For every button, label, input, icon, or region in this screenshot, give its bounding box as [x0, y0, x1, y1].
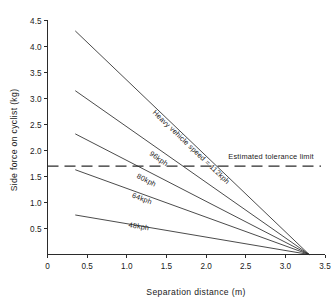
y-tick-label: 2.0 [30, 147, 42, 156]
series-label: 96kph [148, 149, 170, 168]
x-tick-label: 1.5 [161, 262, 173, 271]
x-tick-label: 2.5 [240, 262, 252, 271]
series-label: 48kph [128, 220, 150, 232]
y-tick-label: 1.0 [30, 199, 42, 208]
chart-container: 0.51.01.52.02.53.03.54.04.5 00.51.01.52.… [0, 0, 335, 304]
y-tick-label: 2.5 [30, 121, 42, 130]
series-label: 64kph [131, 191, 153, 206]
x-tick-label: 3.5 [319, 262, 331, 271]
x-tick-label: 0.5 [81, 262, 93, 271]
y-tick-label: 1.5 [30, 173, 42, 182]
y-tick-label: 3.5 [30, 69, 42, 78]
y-tick-label: 4.5 [30, 17, 42, 26]
x-tick-label: 2.0 [200, 262, 212, 271]
tolerance-limit-label: Estimated tolerance limit [228, 152, 314, 161]
y-axis-title: Side force on cyclist (kg) [9, 89, 19, 192]
y-axis-ticks: 0.51.01.52.02.53.03.54.04.5 [30, 17, 47, 234]
series-label: 80kph [135, 171, 157, 188]
series-line [75, 170, 309, 255]
side-force-vs-separation-distance-chart: 0.51.01.52.02.53.03.54.04.5 00.51.01.52.… [0, 0, 335, 304]
x-axis-ticks: 00.51.01.52.02.53.03.5 [45, 255, 331, 271]
series-inline-labels: Heavy vehicle speed = 112kph96kph80kph64… [128, 108, 232, 232]
series-line [75, 91, 309, 255]
chart-annotations: Estimated tolerance limit [48, 152, 322, 166]
series-label: Heavy vehicle speed = 112kph [151, 108, 232, 186]
x-tick-label: 0 [45, 262, 50, 271]
x-tick-label: 3.0 [280, 262, 292, 271]
y-tick-label: 3.0 [30, 95, 42, 104]
y-tick-label: 0.5 [30, 225, 42, 234]
x-tick-label: 1.0 [121, 262, 133, 271]
x-axis-title: Separation distance (m) [146, 287, 245, 297]
y-tick-label: 4.0 [30, 43, 42, 52]
